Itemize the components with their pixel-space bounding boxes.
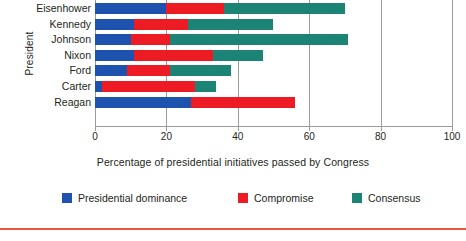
x-tick-label: 20	[161, 131, 172, 142]
bar-segment	[166, 3, 223, 14]
bar-segment	[134, 19, 188, 30]
y-axis-label: Reagan	[18, 96, 91, 108]
x-axis-ticks: 020406080100	[95, 126, 452, 144]
bar-segment	[95, 34, 131, 45]
y-axis-label: Kennedy	[18, 18, 91, 30]
bar-segment	[95, 97, 191, 108]
bar-segment	[95, 81, 102, 92]
bottom-rule-divider	[0, 228, 466, 230]
x-tick-label: 0	[92, 131, 98, 142]
stacked-bar-chart: President EisenhowerKennedyJohnsonNixonF…	[0, 0, 466, 241]
bar-segment	[191, 97, 295, 108]
legend-label: Compromise	[254, 192, 314, 204]
bar-segment	[170, 65, 231, 76]
x-tick-label: 80	[375, 131, 386, 142]
bar-segment	[188, 19, 274, 30]
y-axis-category-labels: EisenhowerKennedyJohnsonNixonFordCarterR…	[18, 0, 91, 126]
legend-swatch-icon	[62, 193, 72, 203]
bar-segment	[195, 81, 216, 92]
y-axis-label: Johnson	[18, 33, 91, 45]
x-tick-label: 100	[444, 131, 461, 142]
x-tick-label: 40	[232, 131, 243, 142]
legend-swatch-icon	[238, 193, 248, 203]
legend-item[interactable]: Consensus	[352, 192, 421, 204]
bar-segment	[134, 50, 213, 61]
y-axis-label: Carter	[18, 80, 91, 92]
bar-segment	[95, 50, 134, 61]
y-axis-label: Nixon	[18, 49, 91, 61]
bar-segment	[131, 34, 170, 45]
bar-segment	[213, 50, 263, 61]
x-tick-label: 60	[304, 131, 315, 142]
bar-segment	[127, 65, 170, 76]
gridline	[309, 0, 310, 126]
chart-legend: Presidential dominanceCompromiseConsensu…	[62, 192, 422, 206]
gridline	[381, 0, 382, 126]
legend-swatch-icon	[352, 193, 362, 203]
plot-area	[95, 0, 452, 126]
bar-segment	[170, 34, 349, 45]
legend-item[interactable]: Presidential dominance	[62, 192, 187, 204]
legend-item[interactable]: Compromise	[238, 192, 314, 204]
bar-segment	[95, 3, 166, 14]
gridline	[452, 0, 453, 126]
legend-label: Consensus	[368, 192, 421, 204]
legend-label: Presidential dominance	[78, 192, 187, 204]
y-axis-label: Eisenhower	[18, 2, 91, 14]
x-axis-title: Percentage of presidential initiatives p…	[0, 156, 466, 168]
y-axis-label: Ford	[18, 64, 91, 76]
bar-segment	[95, 65, 127, 76]
bar-segment	[95, 19, 134, 30]
bar-segment	[224, 3, 345, 14]
bar-segment	[102, 81, 195, 92]
